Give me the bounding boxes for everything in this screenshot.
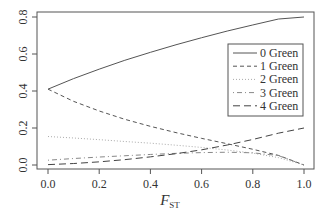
legend: 0 Green1 Green2 Green3 Green4 Green: [228, 44, 303, 116]
y-tick-label: 0.2: [16, 121, 30, 136]
x-tick-label: 1.0: [297, 177, 312, 191]
y-tick-label: 0.6: [16, 47, 30, 62]
x-axis: 0.00.20.40.60.81.0: [41, 169, 312, 191]
y-tick-label: 0.8: [16, 10, 30, 25]
y-tick-label: 0.4: [16, 84, 30, 99]
chart: 0.00.20.40.60.8 0.00.20.40.60.81.0 FST 0…: [0, 0, 331, 217]
x-tick-label: 0.0: [41, 177, 56, 191]
x-tick-label: 0.4: [143, 177, 158, 191]
y-tick-label: 0.0: [16, 158, 30, 173]
legend-label: 1 Green: [260, 59, 298, 73]
series-line-2: [48, 137, 304, 165]
legend-label: 2 Green: [260, 72, 298, 86]
y-axis: 0.00.20.40.60.8: [16, 10, 37, 173]
x-axis-label-subscript: ST: [169, 200, 180, 210]
legend-label: 4 Green: [260, 99, 298, 113]
series-line-4: [48, 128, 304, 165]
x-tick-label: 0.2: [92, 177, 107, 191]
x-tick-label: 0.8: [245, 177, 260, 191]
legend-label: 3 Green: [260, 86, 298, 100]
legend-label: 0 Green: [260, 46, 298, 60]
x-tick-label: 0.6: [194, 177, 209, 191]
x-axis-label: FST: [159, 192, 180, 210]
